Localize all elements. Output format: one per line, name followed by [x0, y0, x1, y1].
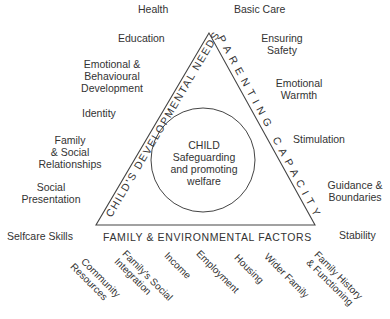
need-family-social-relationships: Family & Social Relationships — [35, 134, 105, 170]
parenting-stimulation: Stimulation — [293, 133, 345, 145]
need-emotional-behavioural: Emotional & Behavioural Development — [80, 58, 144, 94]
center-line-1: Safeguarding — [158, 151, 250, 163]
center-text: CHILD Safeguarding and promoting welfare — [158, 139, 250, 187]
parenting-guidance-boundaries: Guidance & Boundaries — [324, 179, 386, 203]
assessment-triangle-diagram: CHILD Safeguarding and promoting welfare… — [0, 0, 390, 319]
need-social-presentation: Social Presentation — [18, 181, 84, 205]
parenting-emotional-warmth: Emotional Warmth — [272, 77, 326, 101]
need-selfcare-skills: Selfcare Skills — [7, 230, 73, 242]
need-education: Education — [118, 32, 165, 44]
center-line-3: welfare — [158, 175, 250, 187]
side-label-family-factors: FAMILY & ENVIRONMENTAL FACTORS — [103, 231, 312, 243]
center-title: CHILD — [158, 139, 250, 151]
parenting-stability: Stability — [339, 229, 376, 241]
need-health: Health — [138, 3, 168, 15]
need-identity: Identity — [82, 107, 116, 119]
parenting-ensuring-safety: Ensuring Safety — [255, 32, 309, 56]
center-line-2: and promoting — [158, 163, 250, 175]
parenting-basic-care: Basic Care — [234, 3, 285, 15]
